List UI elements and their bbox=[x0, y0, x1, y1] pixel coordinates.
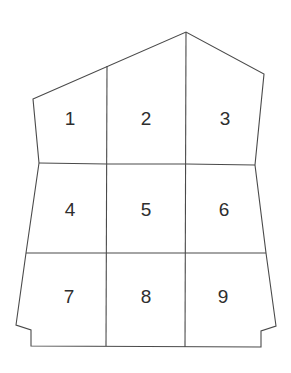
cell-label-9: 9 bbox=[218, 286, 229, 307]
cell-label-5: 5 bbox=[141, 199, 152, 220]
cell-label-6: 6 bbox=[219, 199, 230, 220]
grid-line-vertical-right bbox=[185, 32, 186, 347]
cell-label-4: 4 bbox=[65, 199, 76, 220]
cell-label-7: 7 bbox=[64, 286, 75, 307]
grid-line-vertical-left bbox=[106, 66, 107, 346]
cell-label-8: 8 bbox=[141, 286, 152, 307]
cell-label-3: 3 bbox=[220, 108, 231, 129]
segmented-shape-diagram: 1 2 3 4 5 6 7 8 9 bbox=[0, 0, 291, 373]
grid-line-horizontal-upper bbox=[39, 163, 255, 165]
cell-label-2: 2 bbox=[141, 108, 152, 129]
cell-label-1: 1 bbox=[65, 108, 76, 129]
